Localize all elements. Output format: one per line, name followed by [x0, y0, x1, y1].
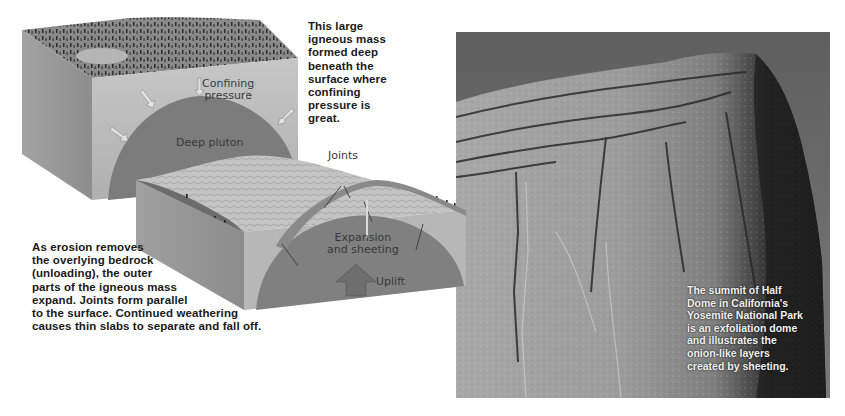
half-dome-photo: The summit of Half Dome in California's …	[456, 32, 830, 398]
confining-pressure-label: Confining pressure	[202, 78, 254, 102]
deep-pluton-caption: This large igneous mass formed deep bene…	[308, 20, 387, 126]
unloading-caption: As erosion removes the overlying bedrock…	[32, 241, 261, 333]
joints-label: Joints	[328, 150, 358, 162]
expansion-sheeting-label: Expansion and sheeting	[327, 232, 399, 256]
photo-caption: The summit of Half Dome in California's …	[687, 284, 803, 372]
deep-pluton-label: Deep pluton	[176, 137, 244, 149]
uplift-label: Uplift	[376, 276, 405, 288]
